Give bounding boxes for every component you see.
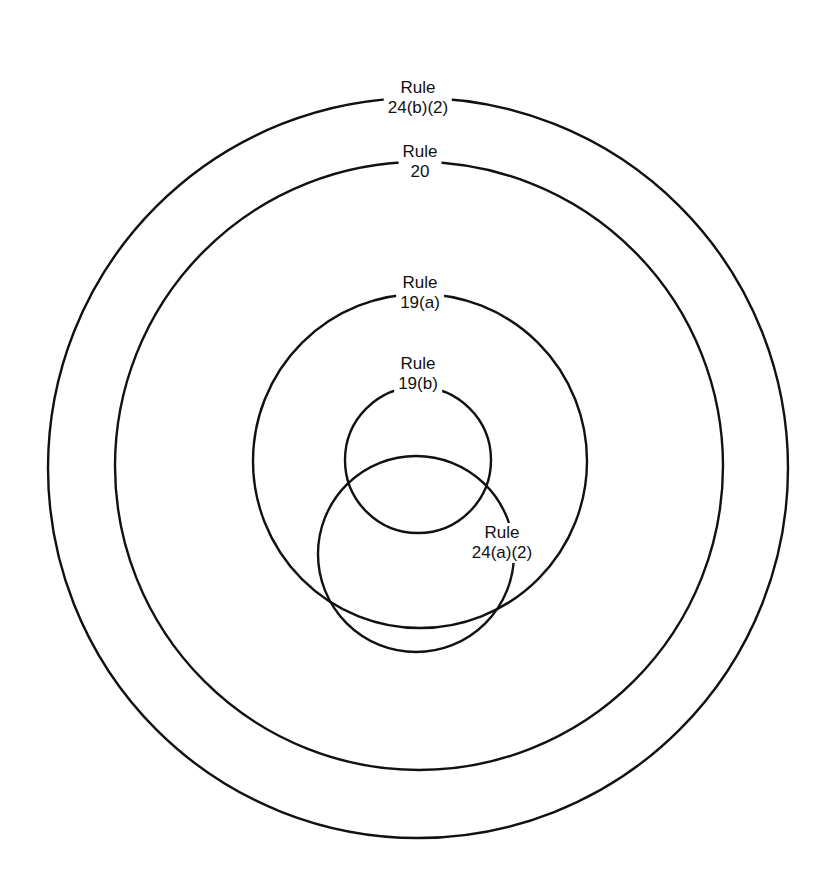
label-rule-19b: Rule 19(b) <box>394 354 442 394</box>
label-rule-24b2-line1: Rule <box>388 78 448 98</box>
circle-rule-19a <box>253 294 587 628</box>
nested-rules-diagram <box>0 0 825 885</box>
label-rule-20-line1: Rule <box>403 142 438 162</box>
label-rule-19a-line2: 19(a) <box>400 293 440 313</box>
label-rule-24a2-line1: Rule <box>472 523 532 543</box>
label-rule-24b2: Rule 24(b)(2) <box>384 78 452 118</box>
label-rule-24a2-line2: 24(a)(2) <box>472 543 532 563</box>
circle-rule-19b <box>345 387 491 533</box>
circle-rule-24b2 <box>48 98 788 838</box>
circle-rule-20 <box>115 162 723 770</box>
label-rule-19a-line1: Rule <box>400 273 440 293</box>
label-rule-20-line2: 20 <box>403 162 438 182</box>
label-rule-19b-line2: 19(b) <box>398 374 438 394</box>
label-rule-24a2: Rule 24(a)(2) <box>468 523 536 563</box>
label-rule-19a: Rule 19(a) <box>396 273 444 313</box>
label-rule-20: Rule 20 <box>399 142 442 182</box>
label-rule-24b2-line2: 24(b)(2) <box>388 98 448 118</box>
label-rule-19b-line1: Rule <box>398 354 438 374</box>
